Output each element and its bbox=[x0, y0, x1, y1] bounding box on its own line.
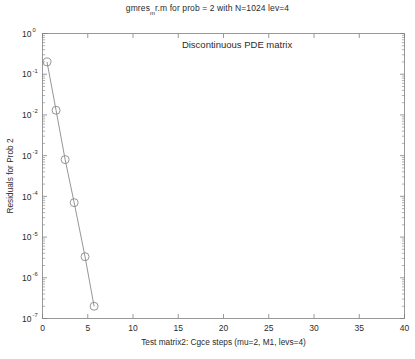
y-tick-label: 10-7 bbox=[22, 312, 38, 324]
y-tick-mantissa: 10 bbox=[22, 273, 32, 283]
x-tick-label: 30 bbox=[309, 323, 319, 333]
y-tick-label: 10-2 bbox=[22, 108, 38, 120]
y-tick-mantissa: 10 bbox=[22, 232, 32, 242]
x-tick-label: 20 bbox=[219, 323, 229, 333]
y-tick-mantissa: 10 bbox=[22, 110, 32, 120]
y-tick-exponent: -2 bbox=[33, 108, 38, 114]
y-tick-exponent: -5 bbox=[33, 231, 38, 237]
y-tick-exponent: -7 bbox=[33, 312, 38, 318]
y-tick-exponent: -1 bbox=[33, 68, 38, 74]
axes-group bbox=[43, 34, 405, 319]
x-tick-label: 40 bbox=[400, 323, 410, 333]
y-tick-exponent: -6 bbox=[33, 271, 38, 277]
y-tick-label: 10-5 bbox=[22, 231, 38, 243]
y-tick-exponent: -3 bbox=[33, 149, 38, 155]
x-tick-label: 35 bbox=[355, 323, 365, 333]
x-tick-label: 10 bbox=[128, 323, 138, 333]
figure-root: gmresmr.m for prob = 2 with N=1024 lev=4… bbox=[0, 0, 415, 359]
y-tick-mantissa: 10 bbox=[22, 29, 32, 39]
chart-canvas: 051015202530354010010-110-210-310-410-51… bbox=[0, 0, 415, 359]
y-tick-label: 10-4 bbox=[22, 190, 38, 202]
series-line bbox=[47, 62, 94, 306]
y-tick-mantissa: 10 bbox=[22, 314, 32, 324]
y-tick-mantissa: 10 bbox=[22, 192, 32, 202]
x-axis-title: Test matrix2: Cgce steps (mu=2, M1, levs… bbox=[141, 337, 306, 347]
data-series-group bbox=[43, 58, 98, 310]
y-tick-exponent: 0 bbox=[33, 27, 36, 33]
plot-box bbox=[43, 34, 405, 319]
y-tick-label: 10-6 bbox=[22, 271, 38, 283]
y-tick-exponent: -4 bbox=[33, 190, 39, 196]
chart-annotation: Discontinuous PDE matrix bbox=[182, 39, 293, 50]
y-tick-label: 10-1 bbox=[22, 68, 38, 80]
y-tick-label: 10-3 bbox=[22, 149, 38, 161]
x-tick-label: 5 bbox=[85, 323, 90, 333]
y-tick-label: 100 bbox=[22, 27, 36, 39]
y-tick-mantissa: 10 bbox=[22, 151, 32, 161]
axis-label-group: 051015202530354010010-110-210-310-410-51… bbox=[5, 27, 409, 347]
x-tick-label: 0 bbox=[40, 323, 45, 333]
x-tick-label: 25 bbox=[264, 323, 274, 333]
x-tick-label: 15 bbox=[174, 323, 184, 333]
annotation-group: Discontinuous PDE matrix bbox=[182, 39, 293, 50]
y-axis-title: Residuals for Prob 2 bbox=[5, 138, 15, 214]
y-tick-mantissa: 10 bbox=[22, 69, 32, 79]
